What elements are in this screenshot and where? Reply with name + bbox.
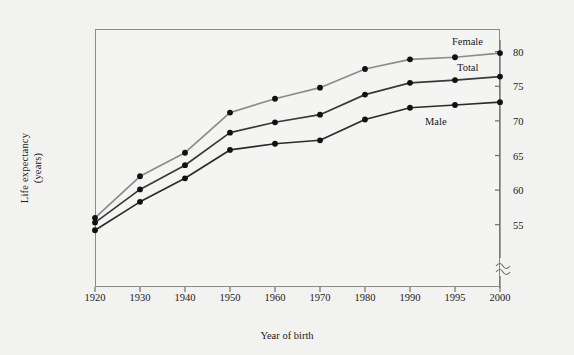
data-point xyxy=(182,150,188,156)
data-point xyxy=(452,54,458,60)
x-tick-label: 1940 xyxy=(175,292,196,303)
data-point xyxy=(182,175,188,181)
x-tick-label: 1920 xyxy=(85,292,106,303)
x-tick-label: 1990 xyxy=(400,292,421,303)
series-label-total: Total xyxy=(457,62,478,73)
x-tick-label: 1950 xyxy=(220,292,241,303)
data-point xyxy=(272,119,278,125)
y-tick-label: 70 xyxy=(513,115,524,126)
data-point xyxy=(497,50,503,56)
data-point xyxy=(227,147,233,153)
data-point xyxy=(227,110,233,116)
data-point xyxy=(452,102,458,108)
chart-figure: Life expectancy (years) Year of birth 19… xyxy=(0,0,574,355)
data-point xyxy=(407,56,413,62)
data-point xyxy=(92,220,98,226)
data-point xyxy=(452,77,458,83)
x-tick-label: 1980 xyxy=(355,292,376,303)
data-point xyxy=(362,66,368,72)
data-point xyxy=(317,85,323,91)
data-point xyxy=(227,130,233,136)
y-tick-label: 65 xyxy=(513,150,524,161)
x-tick-label: 1960 xyxy=(265,292,286,303)
data-point xyxy=(407,105,413,111)
y-tick-label: 80 xyxy=(513,46,524,57)
y-tick-label: 55 xyxy=(513,219,524,230)
x-tick-label: 1970 xyxy=(310,292,331,303)
x-tick-label: 1995 xyxy=(445,292,466,303)
series-label-male: Male xyxy=(425,116,447,127)
data-point xyxy=(497,99,503,105)
x-tick-label: 1930 xyxy=(130,292,151,303)
y-tick-label: 60 xyxy=(513,185,524,196)
data-point xyxy=(137,199,143,205)
data-point xyxy=(272,141,278,147)
data-point xyxy=(362,92,368,98)
data-point xyxy=(182,162,188,168)
data-point xyxy=(272,96,278,102)
data-point xyxy=(92,227,98,233)
data-point xyxy=(497,74,503,80)
x-tick-label: 2000 xyxy=(490,292,511,303)
data-point xyxy=(362,117,368,123)
axis-break-icon xyxy=(496,264,510,275)
data-point xyxy=(317,112,323,118)
data-point xyxy=(137,187,143,193)
data-point xyxy=(407,80,413,86)
series-line-total xyxy=(95,77,500,223)
data-point xyxy=(137,173,143,179)
series-label-female: Female xyxy=(452,36,483,47)
data-point xyxy=(317,137,323,143)
y-tick-label: 75 xyxy=(513,81,524,92)
